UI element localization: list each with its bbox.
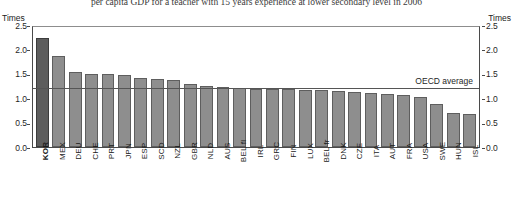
x-label-slot: AUT [380, 149, 397, 197]
bar-slot [297, 27, 313, 147]
y-tick-mark [27, 148, 30, 149]
bar-ita [365, 93, 378, 147]
x-axis-labels: KORMEXDEUCHEPRTJPNESPSCDNZLGBRNLDAUSBEL … [32, 149, 480, 197]
bar-slot [330, 27, 346, 147]
x-label-slot: AUS [215, 149, 232, 197]
x-label-slot: NZL [165, 149, 182, 197]
x-label-slot: BEL fr [314, 149, 331, 197]
bar-prt [102, 74, 115, 147]
bar-slot [461, 27, 477, 147]
y-tick-mark [482, 124, 485, 125]
y-tick-mark [27, 50, 30, 51]
y-tick-left-0.5: 0.5 [15, 119, 27, 128]
x-label-slot: SWE [429, 149, 446, 197]
bar-slot [445, 27, 461, 147]
y-tick-mark [482, 50, 485, 51]
bar-slot [346, 27, 362, 147]
x-label-slot: HUN [446, 149, 463, 197]
x-label-slot: GBR [182, 149, 199, 197]
bar-slot [248, 27, 264, 147]
plot-area: OECD average [32, 26, 480, 148]
y-tick-mark [27, 26, 30, 27]
chart-figure: per capita GDP for a teacher with 15 yea… [0, 0, 513, 197]
oecd-average-label: OECD average [415, 76, 473, 86]
bar-nld [200, 86, 213, 147]
y-tick-mark [27, 75, 30, 76]
x-label-isl: ISL [471, 145, 480, 158]
x-label-slot: DNK [330, 149, 347, 197]
bar-dnk [332, 91, 345, 147]
y-tick-mark [27, 124, 30, 125]
y-tick-right-0.5: 0.5 [486, 119, 498, 128]
bar-cze [348, 92, 361, 147]
bar-deu [69, 72, 82, 147]
x-label-slot: FIN [281, 149, 298, 197]
y-tick-right-0.0: 0.0 [486, 144, 498, 153]
bar-gbr [184, 84, 197, 147]
x-label-slot: DEU [66, 149, 83, 197]
bar-slot [231, 27, 247, 147]
y-tick-left-1.0: 1.0 [15, 95, 27, 104]
oecd-average-line [33, 88, 479, 89]
bar-che [85, 74, 98, 147]
bar-slot [50, 27, 66, 147]
bar-grc [266, 89, 279, 147]
x-label-slot: ESP [132, 149, 149, 197]
x-label-slot: CHE [83, 149, 100, 197]
bar-slot [116, 27, 132, 147]
x-label-slot: NLD [198, 149, 215, 197]
x-label-slot: USA [413, 149, 430, 197]
y-tick-mark [482, 26, 485, 27]
x-label-slot: ISL [462, 149, 479, 197]
y-tick-right-1.5: 1.5 [486, 70, 498, 79]
bar-slot [429, 27, 445, 147]
bar-aut [381, 94, 394, 147]
bar-series [33, 27, 479, 147]
y-tick-mark [482, 75, 485, 76]
bar-lux [299, 90, 312, 147]
bar-scd [151, 79, 164, 147]
bar-bel-fl [233, 88, 246, 147]
x-label-slot: BEL fl [231, 149, 248, 197]
bar-slot [215, 27, 231, 147]
x-label-slot: PRT [99, 149, 116, 197]
bar-slot [34, 27, 50, 147]
y-tick-right-2.0: 2.0 [486, 46, 498, 55]
bar-kor [36, 38, 49, 147]
y-tick-left-2.0: 2.0 [15, 46, 27, 55]
bar-nzl [167, 80, 180, 147]
y-axis-right: 0.00.51.01.52.02.5 [482, 26, 512, 148]
bar-slot [412, 27, 428, 147]
y-tick-left-0.0: 0.0 [15, 144, 27, 153]
bar-slot [83, 27, 99, 147]
bar-slot [379, 27, 395, 147]
x-label-slot: MEX [50, 149, 67, 197]
x-label-slot: FRA [396, 149, 413, 197]
x-label-slot: IRL [248, 149, 265, 197]
x-label-slot: JPN [116, 149, 133, 197]
bar-fra [397, 95, 410, 147]
bar-slot [396, 27, 412, 147]
bar-slot [67, 27, 83, 147]
x-label-slot: CZE [347, 149, 364, 197]
bar-slot [182, 27, 198, 147]
bar-isl [463, 114, 476, 147]
bar-slot [264, 27, 280, 147]
bar-slot [281, 27, 297, 147]
bar-swe [430, 104, 443, 147]
x-label-slot: GRC [264, 149, 281, 197]
bar-aus [217, 87, 230, 147]
y-axis-left: 0.00.51.01.52.02.5 [0, 26, 30, 148]
bar-jpn [118, 75, 131, 147]
x-label-slot: ITA [363, 149, 380, 197]
bar-slot [313, 27, 329, 147]
y-tick-left-2.5: 2.5 [15, 22, 27, 31]
bar-slot [133, 27, 149, 147]
bar-fin [282, 89, 295, 147]
bar-slot [100, 27, 116, 147]
bar-slot [363, 27, 379, 147]
x-label-slot: KOR [33, 149, 50, 197]
y-tick-mark [482, 148, 485, 149]
y-tick-mark [482, 99, 485, 100]
x-label-slot: LUX [297, 149, 314, 197]
